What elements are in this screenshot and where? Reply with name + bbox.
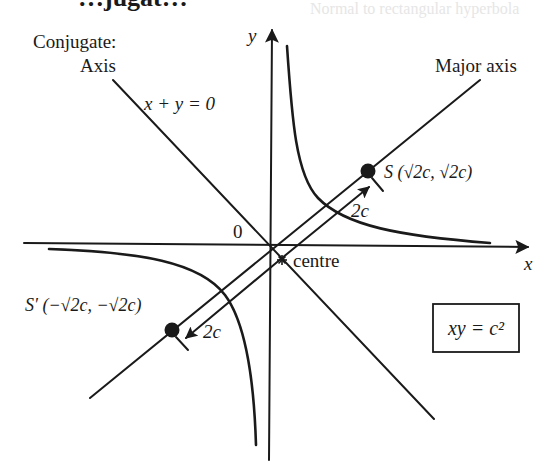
cropped-heading: …jugat… (78, 0, 188, 12)
centre-star-icon (277, 255, 287, 265)
distance-arrow-lower (186, 258, 282, 338)
origin-label: 0 (233, 221, 243, 242)
focus-S-prime-point (165, 323, 180, 338)
conjugate-axis-label-line1: Conjugate: (33, 31, 116, 52)
bleed-through-text: Normal to rectangular hyperbola (310, 0, 519, 18)
focus-S-prime-label: S′ (−√2c, −√2c) (25, 295, 141, 316)
x-axis-label: x (523, 253, 533, 274)
centre-label: centre (293, 250, 339, 271)
equation-label: xy = c² (447, 317, 505, 340)
major-axis-line (90, 80, 480, 398)
focus-S-point (361, 164, 376, 179)
major-axis-label: Major axis (435, 55, 517, 76)
focus-S-label: S (√2c, √2c) (384, 162, 472, 183)
distance-arrow-upper (282, 187, 369, 258)
y-axis-label: y (246, 25, 257, 46)
distance-label-lower: 2c (203, 321, 222, 342)
conjugate-axis-label-line2: Axis (80, 55, 116, 76)
rectangular-hyperbola-diagram: …jugat… Normal to rectangular hyperbola … (0, 0, 560, 474)
conjugate-axis-equation: x + y = 0 (143, 93, 216, 114)
focus-S-tick (372, 178, 383, 191)
distance-label-upper: 2c (351, 200, 370, 221)
